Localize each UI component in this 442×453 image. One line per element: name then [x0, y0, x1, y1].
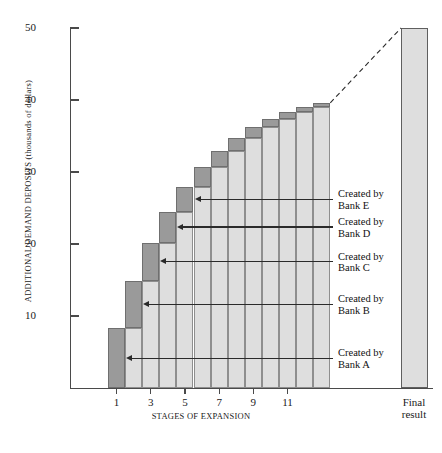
annotation-label-bank-d-line2: Bank D — [338, 228, 384, 240]
x-tick-label-1: 1 — [102, 396, 132, 409]
annotation-arrowhead-icon-bank-d — [177, 224, 183, 230]
annotation-label-bank-b: Created byBank B — [338, 293, 384, 316]
y-tick-label-wrap-40: 40 — [0, 94, 70, 105]
bar-stage-13-new-deposit — [313, 103, 330, 107]
bar-stage-4-new-deposit — [159, 212, 176, 243]
annotation-arrowhead-icon-bank-e — [195, 196, 201, 202]
bar-stage-5-existing — [176, 212, 193, 388]
annotation-label-bank-d-line1: Created by — [338, 216, 384, 228]
annotation-label-bank-e-line1: Created by — [338, 188, 384, 200]
x-tick-5 — [184, 388, 185, 394]
annotation-arrowhead-icon-bank-a — [126, 355, 132, 361]
bar-stage-3-existing — [142, 281, 159, 388]
bar-stage-2-new-deposit — [125, 281, 142, 329]
x-tick-label-11: 11 — [273, 396, 303, 409]
final-result-label-line1: Final — [385, 396, 442, 408]
annotation-leader-line-bank-c — [165, 261, 333, 262]
annotation-leader-line-bank-a — [131, 358, 333, 359]
final-result-label-line2: result — [385, 408, 442, 420]
x-tick-3 — [150, 388, 151, 394]
annotation-label-bank-a: Created byBank A — [338, 347, 384, 370]
x-tick-11 — [287, 388, 288, 394]
x-axis-line — [70, 388, 433, 389]
bar-stage-4-existing — [159, 243, 176, 388]
bar-stage-7-existing — [211, 167, 228, 388]
y-tick-label-50: 50 — [10, 22, 36, 33]
annotation-label-bank-a-line2: Bank A — [338, 359, 384, 371]
x-tick-label-5: 5 — [170, 396, 200, 409]
bar-stage-10-existing — [262, 127, 279, 388]
annotation-arrowhead-icon-bank-c — [160, 258, 166, 264]
annotation-label-bank-e: Created byBank E — [338, 188, 384, 211]
y-tick-40 — [70, 99, 79, 100]
y-tick-10 — [70, 315, 79, 316]
annotation-leader-line-bank-d — [182, 226, 333, 227]
annotation-label-bank-e-line2: Bank E — [338, 200, 384, 212]
x-tick-label-7: 7 — [204, 396, 234, 409]
x-tick-label-9: 9 — [238, 396, 268, 409]
y-tick-50 — [70, 27, 79, 28]
bar-stage-11-existing — [279, 119, 296, 388]
bar-stage-9-new-deposit — [245, 127, 262, 138]
annotation-label-bank-c-line2: Bank C — [338, 262, 384, 274]
x-tick-label-3: 3 — [136, 396, 166, 409]
bar-stage-10-new-deposit — [262, 119, 279, 127]
x-axis-title: STAGES OF EXPANSION — [70, 411, 332, 421]
x-tick-7 — [219, 388, 220, 394]
bar-stage-12-new-deposit — [296, 107, 313, 112]
y-tick-30 — [70, 171, 79, 172]
annotation-label-bank-b-line2: Bank B — [338, 305, 384, 317]
annotation-label-bank-a-line1: Created by — [338, 347, 384, 359]
bar-stage-6-new-deposit — [194, 167, 211, 187]
bar-stage-8-existing — [228, 151, 245, 388]
annotation-leader-line-bank-e — [200, 199, 334, 200]
y-axis-line — [70, 28, 71, 388]
x-tick-1 — [116, 388, 117, 394]
deposit-expansion-chart: 1020304050 ADDITIONAL DEMAND DEPOSITS (t… — [0, 0, 442, 453]
y-axis-title: ADDITIONAL DEMAND DEPOSITS (thousands of… — [23, 41, 33, 341]
bar-stage-12-existing — [296, 112, 313, 388]
annotation-label-bank-b-line1: Created by — [338, 293, 384, 305]
y-tick-label-wrap-20: 20 — [0, 238, 70, 249]
bar-stage-3-new-deposit — [142, 243, 159, 281]
annotation-label-bank-d: Created byBank D — [338, 216, 384, 239]
bar-stage-5-new-deposit — [176, 187, 193, 211]
final-result-bar — [401, 28, 428, 388]
y-tick-label-wrap-50: 50 — [0, 22, 70, 33]
y-tick-label-wrap-30: 30 — [0, 166, 70, 177]
y-tick-label-wrap-10: 10 — [0, 310, 70, 321]
x-tick-9 — [253, 388, 254, 394]
annotation-label-bank-c-line1: Created by — [338, 251, 384, 263]
final-result-label: Final result — [385, 396, 442, 420]
bar-stage-8-new-deposit — [228, 138, 245, 151]
bar-stage-11-new-deposit — [279, 112, 296, 119]
bar-stage-13-existing — [313, 107, 330, 388]
bar-stage-9-existing — [245, 138, 262, 388]
y-tick-20 — [70, 243, 79, 244]
bar-stage-1-new-deposit — [108, 328, 125, 388]
annotation-label-bank-c: Created byBank C — [338, 251, 384, 274]
bar-stage-7-new-deposit — [211, 151, 228, 167]
annotation-leader-line-bank-b — [148, 304, 333, 305]
annotation-arrowhead-icon-bank-b — [143, 301, 149, 307]
